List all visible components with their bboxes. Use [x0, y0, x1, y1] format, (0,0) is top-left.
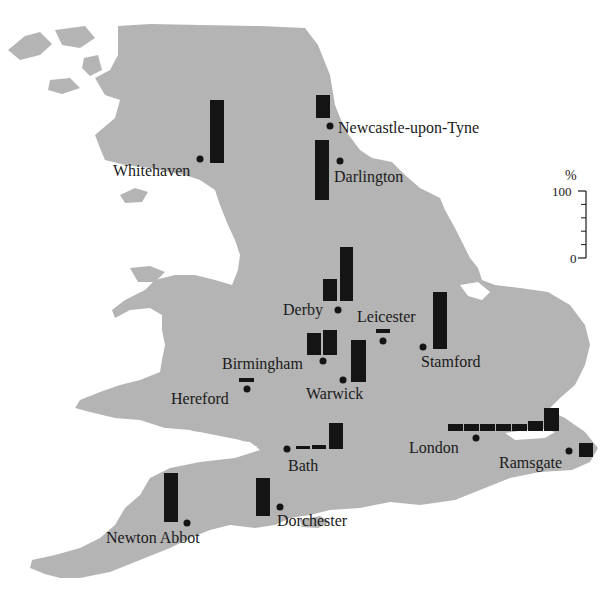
bar-birmingham-1	[307, 333, 321, 355]
bar-newcastle	[316, 95, 330, 118]
bar-london-7	[544, 408, 559, 431]
bar-newton-abbot	[164, 473, 178, 522]
dot-stamford	[420, 344, 427, 351]
bar-darlington	[315, 140, 329, 200]
label-dorchester: Dorchester	[277, 513, 347, 529]
dot-whitehaven	[197, 156, 204, 163]
label-whitehaven: Whitehaven	[113, 163, 190, 179]
bar-hereford	[239, 378, 254, 382]
bar-london-1	[448, 424, 463, 431]
dot-newcastle	[327, 123, 334, 130]
dot-ramsgate	[566, 448, 573, 455]
scale-min-label: 0	[570, 252, 577, 265]
bar-london-2	[464, 424, 479, 431]
label-bath: Bath	[288, 458, 318, 474]
label-london: London	[409, 440, 459, 456]
dot-leicester	[380, 338, 387, 345]
bar-london-6	[528, 421, 543, 431]
dot-newton-abbot	[184, 520, 191, 527]
label-warwick: Warwick	[306, 386, 363, 402]
label-hereford: Hereford	[171, 391, 229, 407]
label-derby: Derby	[283, 302, 323, 318]
bar-ramsgate	[579, 443, 593, 457]
label-birmingham: Birmingham	[222, 356, 303, 372]
bar-bath-2	[312, 445, 326, 449]
bar-bath-3	[329, 423, 343, 449]
dot-derby	[335, 307, 342, 314]
bar-stamford	[433, 292, 447, 349]
percentage-scale	[578, 191, 586, 258]
scale-max-label: 100	[552, 185, 572, 198]
label-darlington: Darlington	[334, 169, 403, 185]
bar-london-3	[480, 424, 495, 431]
dot-hereford	[244, 386, 251, 393]
bar-derby-1	[323, 279, 337, 301]
bar-whitehaven	[210, 100, 224, 163]
bar-leicester	[376, 329, 390, 333]
dot-darlington	[337, 158, 344, 165]
label-leicester: Leicester	[357, 309, 416, 325]
label-ramsgate: Ramsgate	[499, 455, 562, 471]
bar-bath-1	[296, 446, 310, 449]
dot-london	[473, 435, 480, 442]
bar-warwick	[351, 340, 366, 382]
dot-birmingham	[320, 358, 327, 365]
scale-unit-label: %	[565, 169, 577, 183]
bar-derby-2	[340, 247, 353, 301]
dot-bath	[284, 446, 291, 453]
label-newcastle: Newcastle-upon-Tyne	[338, 120, 479, 136]
bar-dorchester	[256, 478, 270, 516]
dot-dorchester	[277, 504, 284, 511]
bar-london-4	[496, 424, 511, 431]
label-newton-abbot: Newton Abbot	[106, 530, 200, 546]
bar-birmingham-2	[323, 330, 337, 355]
label-stamford: Stamford	[421, 354, 481, 370]
bar-london-5	[512, 424, 527, 431]
dot-warwick	[340, 377, 347, 384]
england-wales-map	[0, 0, 612, 592]
